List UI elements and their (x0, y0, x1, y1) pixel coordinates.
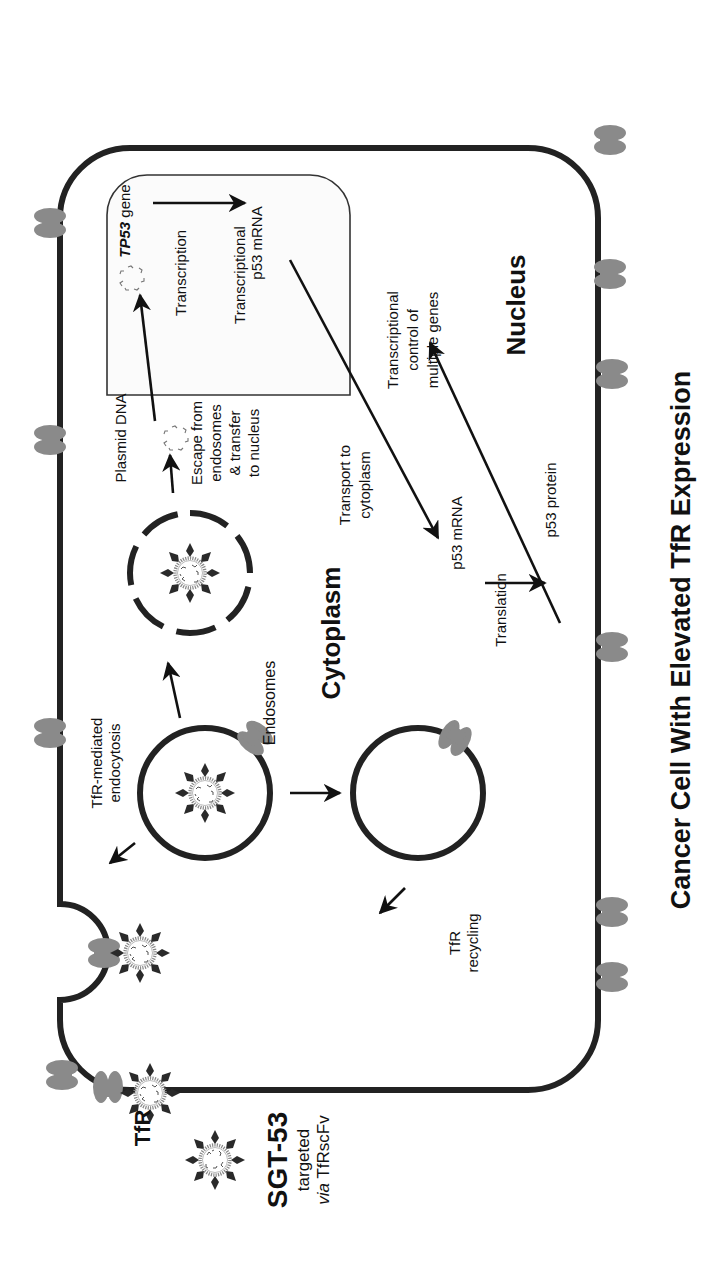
arrow-recycling-to-membrane (380, 888, 405, 913)
tp53-gene-label: TP53 gene (116, 184, 133, 257)
escape-label-4: to nucleus (245, 409, 262, 477)
transport-label-1: Transport to (336, 445, 353, 525)
plasmid-dna-label: Plasmid DNA (112, 393, 129, 482)
nucleus-label: Nucleus (501, 254, 531, 355)
p53-mrna-nucleus-label: p53 mRNA (248, 206, 265, 279)
transcriptional-control-1: Transcriptional (384, 291, 401, 389)
legend: SGT-53 targeted via TfRscFv (185, 1112, 333, 1208)
escape-label-3: & transfer (226, 410, 243, 475)
transcriptional-control-3: multiple genes (424, 292, 441, 389)
transcription-label: Transcription (172, 230, 189, 316)
escape-label-1: Escape from (188, 401, 205, 485)
legend-line1: targeted (294, 1129, 313, 1191)
figure-title: Cancer Cell With Elevated TfR Expression (666, 371, 696, 909)
tfr-recycling-label-2: recycling (464, 913, 481, 972)
tfr-endocytosis-label-2: endocytosis (106, 723, 123, 802)
legend-name: SGT-53 (262, 1112, 293, 1208)
transcriptional-control-2: control of (404, 308, 421, 371)
endosomes-label: Endosomes (261, 661, 278, 746)
legend-line2: via TfRscFv (314, 1115, 333, 1205)
arrow-vesicle-to-endosome (168, 663, 180, 718)
sgt53-nanoparticle-icon (185, 1130, 245, 1190)
arrow-endosome-to-plasmid (170, 455, 173, 493)
rotated-diagram: TfR TfR-mediated endocytosis Endosomes C… (34, 125, 628, 1146)
diagram-canvas: TfR TfR-mediated endocytosis Endosomes C… (0, 0, 714, 1283)
translation-label: Translation (492, 573, 509, 647)
tfr-recycling-label-1: TfR (446, 931, 463, 955)
transport-label-2: cytoplasm (356, 451, 373, 519)
p53-protein-label: p53 protein (542, 462, 559, 537)
arrow-pit-to-vesicle (110, 843, 135, 863)
nucleus-envelope (107, 175, 350, 395)
tfr-label: TfR (130, 1110, 155, 1147)
cytoplasm-label: Cytoplasm (316, 567, 346, 700)
p53-mrna-cytoplasm-label: p53 mRNA (448, 496, 465, 569)
escape-label-2: endosomes (207, 404, 224, 482)
tfr-endocytosis-label-1: TfR-mediated (88, 718, 105, 809)
transcriptional-label-1: Transcriptional (231, 226, 248, 324)
